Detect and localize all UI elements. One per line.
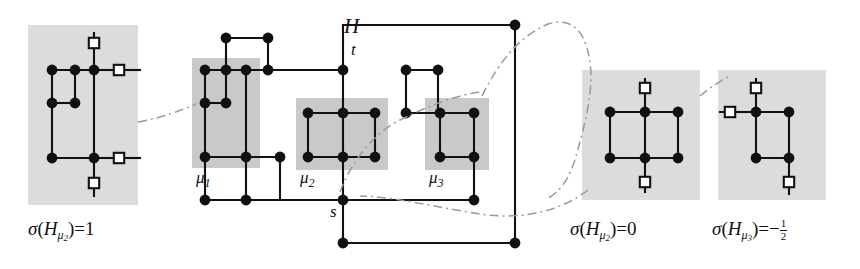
caption-h: H — [586, 218, 600, 239]
graph-terminal-square — [725, 107, 735, 117]
graph-node — [605, 153, 616, 164]
caption-fraction: 12 — [780, 218, 788, 242]
graph-node — [89, 153, 100, 164]
panel-right-2-graph-group — [718, 70, 826, 200]
graph-node — [338, 108, 349, 119]
graph-node — [605, 107, 616, 118]
graph-node — [338, 238, 349, 249]
caption-sigma: σ — [28, 218, 37, 239]
graph-node — [751, 153, 762, 164]
graph-node — [241, 195, 252, 206]
graph-node — [338, 195, 349, 206]
graph-node — [469, 195, 480, 206]
graph-node — [241, 65, 252, 76]
graph-node — [338, 152, 349, 163]
graph-node — [200, 98, 211, 109]
graph-node — [370, 108, 381, 119]
graph-node — [673, 107, 684, 118]
mu3-bg — [425, 98, 489, 170]
panel-left-graph-background — [28, 25, 138, 205]
caption-panel-left: σ(Hμ2)=1 — [28, 218, 95, 243]
caption-equals: = — [74, 218, 85, 239]
panel-right-2-graph-background — [718, 70, 826, 200]
graph-node — [784, 107, 795, 118]
graph-node — [221, 98, 232, 109]
component-label-mu2: μ2 — [300, 168, 315, 191]
graph-node — [221, 65, 232, 76]
graph-label-H: H — [344, 14, 359, 39]
graph-node — [751, 107, 762, 118]
component-label-mu2-index: 2 — [309, 176, 315, 190]
graph-label-s: s — [330, 202, 337, 222]
graph-terminal-square — [751, 83, 761, 93]
graph-node — [433, 65, 444, 76]
graph-node — [469, 108, 480, 119]
graph-terminal-square — [640, 177, 650, 187]
caption-panel-right-1: σ(Hμ2)=0 — [570, 218, 637, 243]
panel-left-graph-group — [28, 25, 140, 205]
component-label-mu1-index: 1 — [205, 176, 211, 190]
figure-container: H t s μ1 μ2 μ3 σ(Hμ2)=1 σ(Hμ2)=0 σ(Hμ3)=… — [0, 0, 860, 269]
graph-label-t: t — [351, 40, 356, 60]
component-label-mu1: μ1 — [196, 168, 211, 191]
caption-minus: − — [769, 218, 780, 239]
graph-node — [640, 107, 651, 118]
graph-node — [435, 108, 446, 119]
panel-right-1-graph-group — [582, 70, 700, 200]
graph-node — [47, 65, 58, 76]
caption-subscript: μ3 — [741, 228, 752, 242]
dashdot-connector — [482, 22, 591, 198]
graph-node — [70, 65, 81, 76]
caption-value: 1 — [85, 218, 95, 239]
graph-node — [510, 238, 521, 249]
graph-node — [200, 195, 211, 206]
graph-node — [303, 108, 314, 119]
graph-node — [89, 65, 100, 76]
graph-terminal-square — [114, 153, 124, 163]
caption-subscript: μ2 — [599, 228, 610, 242]
graph-terminal-square — [114, 65, 124, 75]
graph-node — [338, 65, 349, 76]
graph-node — [47, 98, 58, 109]
graph-node — [221, 33, 232, 44]
graph-node — [303, 152, 314, 163]
component-label-mu3-index: 3 — [438, 176, 444, 190]
graph-node — [70, 98, 81, 109]
caption-sigma: σ — [570, 218, 579, 239]
graph-node — [241, 152, 252, 163]
graph-node — [435, 152, 446, 163]
dashdot-connector — [138, 104, 196, 122]
caption-panel-right-2: σ(Hμ3)=−12 — [712, 218, 787, 243]
graph-node — [640, 153, 651, 164]
main-graph-group — [192, 20, 520, 249]
graph-node — [263, 65, 274, 76]
graph-node — [401, 65, 412, 76]
graph-node — [370, 152, 381, 163]
caption-value: 0 — [627, 218, 637, 239]
graph-terminal-square — [784, 177, 794, 187]
graph-node — [469, 152, 480, 163]
caption-h: H — [44, 218, 58, 239]
graph-node — [263, 33, 274, 44]
caption-sigma: σ — [712, 218, 721, 239]
graph-node — [47, 153, 58, 164]
graph-terminal-square — [89, 178, 99, 188]
component-label-mu3: μ3 — [429, 168, 444, 191]
graph-node — [275, 152, 286, 163]
graph-node — [673, 153, 684, 164]
graph-node — [784, 153, 795, 164]
graph-node — [200, 65, 211, 76]
caption-equals: = — [758, 218, 769, 239]
graph-node — [510, 20, 521, 31]
graph-terminal-square — [89, 38, 99, 48]
caption-equals: = — [616, 218, 627, 239]
caption-h: H — [728, 218, 742, 239]
graph-node — [200, 152, 211, 163]
graph-terminal-square — [640, 83, 650, 93]
caption-subscript: μ2 — [57, 228, 68, 242]
